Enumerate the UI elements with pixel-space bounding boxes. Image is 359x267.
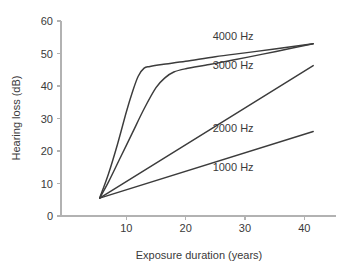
axes bbox=[61, 21, 336, 216]
series-label-1000-hz: 1000 Hz bbox=[213, 161, 254, 173]
x-axis-title: Exposure duration (years) bbox=[136, 249, 263, 261]
y-tick-label: 60 bbox=[41, 15, 53, 27]
curve-3000-hz bbox=[100, 44, 314, 198]
y-tick-label: 30 bbox=[41, 113, 53, 125]
y-tick-label: 40 bbox=[41, 80, 53, 92]
tick-marks bbox=[57, 21, 304, 220]
x-tick-label: 10 bbox=[120, 222, 132, 234]
y-tick-label: 50 bbox=[41, 48, 53, 60]
x-tick-label: 40 bbox=[298, 222, 310, 234]
curve-1000-hz bbox=[100, 132, 314, 199]
series-label-3000-hz: 3000 Hz bbox=[213, 59, 254, 71]
x-tick-label: 20 bbox=[180, 222, 192, 234]
y-tick-label: 0 bbox=[47, 210, 53, 222]
curve-2000-hz bbox=[100, 66, 314, 199]
series-label-2000-hz: 2000 Hz bbox=[213, 122, 254, 134]
tick-labels: 010203040506010203040 bbox=[41, 15, 311, 234]
curve-4000-hz bbox=[100, 44, 314, 198]
chart-canvas: 010203040506010203040 4000 Hz3000 Hz2000… bbox=[0, 0, 359, 267]
data-curves bbox=[100, 44, 314, 198]
y-tick-label: 10 bbox=[41, 178, 53, 190]
hearing-loss-chart-figure: 010203040506010203040 4000 Hz3000 Hz2000… bbox=[0, 0, 359, 267]
y-tick-label: 20 bbox=[41, 145, 53, 157]
series-label-4000-hz: 4000 Hz bbox=[213, 30, 254, 42]
x-tick-label: 30 bbox=[239, 222, 251, 234]
y-axis-title: Hearing loss (dB) bbox=[10, 76, 22, 161]
